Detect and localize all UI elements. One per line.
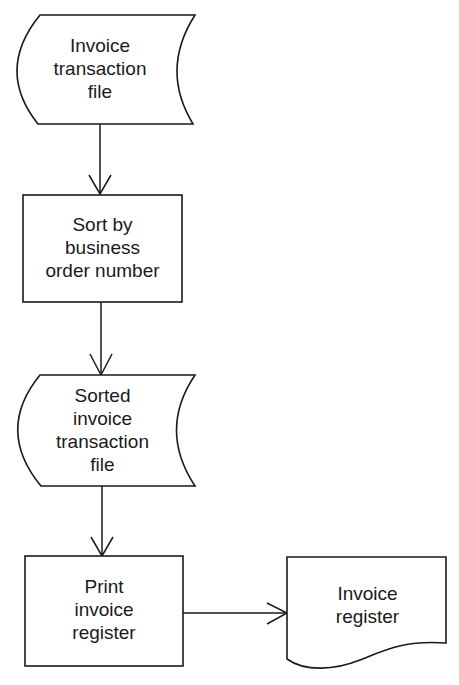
node-label-print-invoice-register: Print invoice register (25, 575, 183, 644)
arrow-1 (89, 124, 111, 194)
arrow-3 (91, 486, 113, 556)
node-label-invoice-register: Invoice register (290, 582, 445, 628)
node-label-sort-by-business-order-number: Sort by business order number (23, 213, 182, 282)
arrow-4 (183, 603, 287, 624)
node-label-sorted-invoice-transaction-file: Sorted invoice transaction file (30, 384, 175, 476)
arrow-2 (90, 302, 112, 375)
node-label-invoice-transaction-file: Invoice transaction file (30, 34, 170, 103)
